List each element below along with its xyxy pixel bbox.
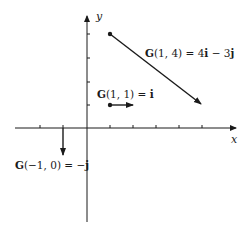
y-axis: y bbox=[87, 10, 103, 222]
vector-g-1-1: G(1, 1) = i bbox=[97, 88, 154, 107]
vector-label-g-1-4: G(1, 4) = 4i − 3j bbox=[145, 47, 234, 59]
x-axis-label: x bbox=[231, 133, 238, 146]
vector-field-diagram: x y G(1, 4) = 4i − 3j G(1, 1) = i bbox=[0, 0, 249, 238]
vector-label-g-1-1: G(1, 1) = i bbox=[97, 88, 154, 100]
vector-label-g-neg1-0: G(−1, 0) = −j bbox=[15, 159, 89, 171]
vector-g-neg1-0: G(−1, 0) = −j bbox=[15, 128, 89, 171]
x-axis: x bbox=[15, 125, 238, 146]
y-axis-label: y bbox=[95, 10, 103, 23]
